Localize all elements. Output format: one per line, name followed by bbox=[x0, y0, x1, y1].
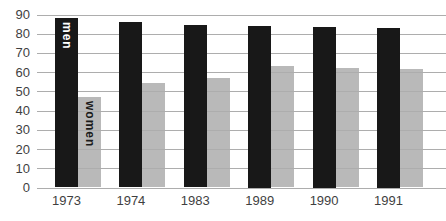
y-tick-label: 50 bbox=[0, 85, 30, 99]
women-bar bbox=[271, 66, 294, 187]
y-tick-label: 30 bbox=[0, 123, 30, 137]
x-tick-label: 1983 bbox=[172, 194, 218, 208]
x-tick-label: 1989 bbox=[237, 194, 283, 208]
y-tick-label: 60 bbox=[0, 66, 30, 80]
men-series-label: men bbox=[60, 22, 74, 50]
men-bar bbox=[248, 26, 271, 188]
women-bar bbox=[142, 83, 165, 188]
y-tick-label: 80 bbox=[0, 27, 30, 41]
y-tick-label: 90 bbox=[0, 8, 30, 22]
y-tick-label: 40 bbox=[0, 104, 30, 118]
x-tick-label: 1973 bbox=[44, 194, 90, 208]
men-bar bbox=[377, 28, 400, 188]
y-tick-label: 20 bbox=[0, 143, 30, 157]
men-bar bbox=[184, 25, 207, 187]
women-bar bbox=[207, 78, 230, 188]
y-tick-label: 10 bbox=[0, 162, 30, 176]
y-tick-label: 0 bbox=[0, 181, 30, 195]
y-tick-label: 70 bbox=[0, 46, 30, 60]
x-tick-label: 1991 bbox=[366, 194, 412, 208]
x-tick-label: 1990 bbox=[301, 194, 347, 208]
women-bar bbox=[400, 69, 423, 187]
bar-chart: 0102030405060708090 menwomen 19731974198… bbox=[0, 0, 446, 221]
gridline bbox=[37, 15, 446, 16]
men-bar: men bbox=[55, 18, 78, 187]
women-bar bbox=[336, 68, 359, 187]
women-series-label: women bbox=[83, 101, 97, 147]
men-bar bbox=[119, 22, 142, 187]
x-tick-label: 1974 bbox=[108, 194, 154, 208]
gridline bbox=[37, 188, 446, 189]
men-bar bbox=[313, 27, 336, 188]
